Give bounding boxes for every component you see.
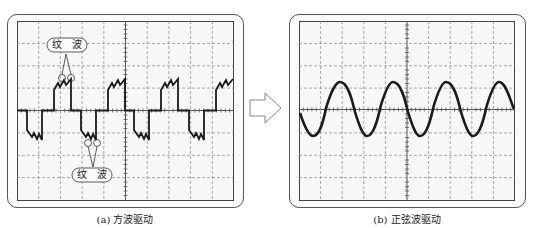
ripple-marker-circle xyxy=(94,140,101,147)
ripple-marker-circle xyxy=(59,75,66,82)
hollow-arrow-right-icon xyxy=(250,93,281,123)
caption-a: (a) 方波驱动 xyxy=(75,211,175,226)
ripple-label-bottom: 纹 波 xyxy=(72,168,112,182)
figure-graphics xyxy=(0,0,533,228)
caption-b: (b) 正弦波驱动 xyxy=(357,211,457,226)
ripple-label-top: 纹 波 xyxy=(47,38,87,52)
ripple-marker-circle xyxy=(85,140,92,147)
